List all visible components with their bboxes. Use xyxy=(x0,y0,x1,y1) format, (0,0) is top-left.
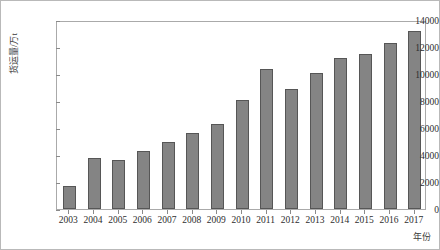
x-tick-mark xyxy=(241,210,242,214)
y-tick-label: 8000 xyxy=(393,97,439,107)
y-tick-mark xyxy=(56,102,60,103)
y-axis-title: 货运量/万t xyxy=(7,0,20,114)
y-tick-mark xyxy=(56,129,60,130)
chart-figure: 货运量/万t 02000400060008000100001200014000 … xyxy=(0,0,440,250)
bars-layer xyxy=(57,22,425,209)
bar xyxy=(260,69,273,209)
x-tick-mark xyxy=(167,210,168,214)
bar xyxy=(137,151,150,209)
bar xyxy=(359,54,372,209)
y-tick-mark xyxy=(56,48,60,49)
bar xyxy=(310,73,323,209)
x-tick-mark xyxy=(192,210,193,214)
y-tick-label: 6000 xyxy=(393,124,439,134)
y-tick-label: 4000 xyxy=(393,151,439,161)
plot-area xyxy=(56,21,426,210)
bar xyxy=(285,89,298,209)
x-tick-mark xyxy=(414,210,415,214)
y-tick-label: 10000 xyxy=(393,70,439,80)
y-tick-label: 0 xyxy=(393,205,439,215)
y-tick-mark xyxy=(56,210,60,211)
bar xyxy=(334,58,347,209)
x-tick-mark xyxy=(340,210,341,214)
x-axis-title: 年份 xyxy=(413,230,431,243)
bar xyxy=(63,186,76,209)
x-tick-mark xyxy=(93,210,94,214)
y-tick-mark xyxy=(56,75,60,76)
bar xyxy=(186,133,199,209)
y-tick-mark xyxy=(56,183,60,184)
bar xyxy=(236,100,249,209)
x-tick-mark xyxy=(68,210,69,214)
x-tick-mark xyxy=(389,210,390,214)
x-tick-label: 2017 xyxy=(394,215,434,225)
bar xyxy=(88,158,101,209)
x-tick-mark xyxy=(118,210,119,214)
x-tick-mark xyxy=(364,210,365,214)
x-tick-mark xyxy=(266,210,267,214)
y-tick-label: 2000 xyxy=(393,178,439,188)
bar xyxy=(211,124,224,209)
y-tick-label: 12000 xyxy=(393,43,439,53)
x-tick-mark xyxy=(216,210,217,214)
x-tick-mark xyxy=(315,210,316,214)
y-tick-mark xyxy=(56,156,60,157)
y-tick-label: 14000 xyxy=(393,16,439,26)
x-tick-mark xyxy=(290,210,291,214)
y-tick-mark xyxy=(56,21,60,22)
bar xyxy=(162,142,175,210)
bar xyxy=(112,160,125,209)
x-tick-mark xyxy=(142,210,143,214)
